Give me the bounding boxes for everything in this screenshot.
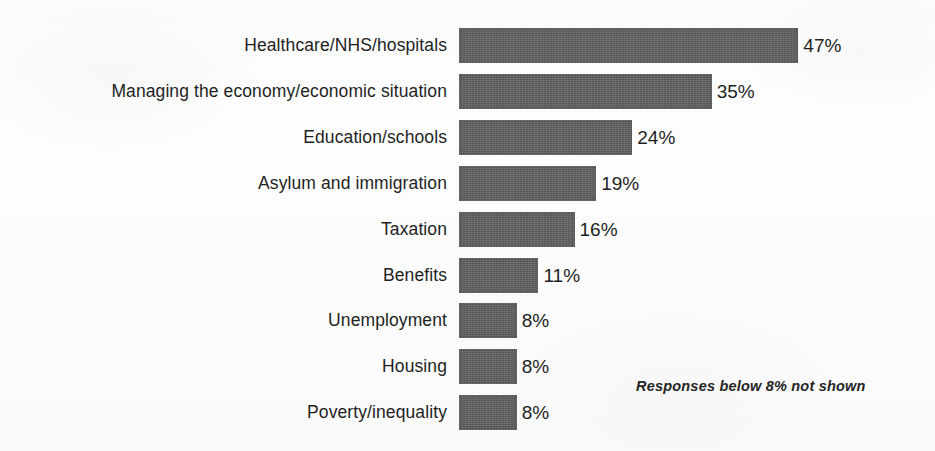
bar-track: [459, 303, 517, 338]
category-label: Poverty/inequality: [0, 395, 447, 430]
bar-track: [459, 349, 517, 384]
bar-row: Asylum and immigration19%: [0, 166, 935, 201]
bar-track: [459, 120, 632, 155]
bar: [459, 120, 632, 155]
category-label: Education/schools: [0, 120, 447, 155]
chart-note: Responses below 8% not shown: [636, 378, 866, 394]
bar-value-label: 19%: [601, 166, 639, 201]
bar: [459, 212, 575, 247]
bar-row: Education/schools24%: [0, 120, 935, 155]
bar-value-label: 24%: [637, 120, 675, 155]
bar-value-label: 11%: [543, 258, 580, 293]
category-label: Taxation: [0, 212, 447, 247]
bar-value-label: 8%: [522, 349, 549, 384]
bar-row: Taxation16%: [0, 212, 935, 247]
bar-value-label: 47%: [803, 28, 841, 63]
bar-row: Managing the economy/economic situation3…: [0, 74, 935, 109]
bar-value-label: 8%: [522, 303, 549, 338]
bar-value-label: 16%: [580, 212, 618, 247]
bar-row: Healthcare/NHS/hospitals47%: [0, 28, 935, 63]
bar: [459, 395, 517, 430]
bar-track: [459, 212, 575, 247]
bar: [459, 303, 517, 338]
category-label: Housing: [0, 349, 447, 384]
bar-value-label: 8%: [522, 395, 549, 430]
bar: [459, 166, 596, 201]
plot-area: Healthcare/NHS/hospitals47%Managing the …: [0, 0, 935, 451]
category-label: Unemployment: [0, 303, 447, 338]
bar: [459, 28, 798, 63]
category-label: Benefits: [0, 258, 447, 293]
bar: [459, 349, 517, 384]
bar-track: [459, 395, 517, 430]
bar-chart: Healthcare/NHS/hospitals47%Managing the …: [0, 0, 935, 451]
category-label: Healthcare/NHS/hospitals: [0, 28, 447, 63]
bar-track: [459, 258, 538, 293]
bar-track: [459, 74, 712, 109]
bar: [459, 74, 712, 109]
bar-row: Unemployment8%: [0, 303, 935, 338]
category-label: Managing the economy/economic situation: [0, 74, 447, 109]
bar-track: [459, 28, 798, 63]
bar-row: Poverty/inequality8%: [0, 395, 935, 430]
category-label: Asylum and immigration: [0, 166, 447, 201]
bar-track: [459, 166, 596, 201]
bar: [459, 258, 538, 293]
bar-row: Benefits11%: [0, 258, 935, 293]
bar-value-label: 35%: [717, 74, 755, 109]
